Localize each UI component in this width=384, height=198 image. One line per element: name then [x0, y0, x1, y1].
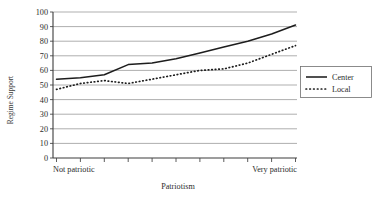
chart-figure: Regime Support 0 10 20 30 40 50 60 70 80…	[0, 0, 384, 198]
y-tick-label: 70	[40, 52, 48, 61]
x-axis-title: Patriotism	[161, 182, 195, 191]
gridlines	[53, 12, 297, 143]
y-tick-label: 50	[40, 81, 48, 90]
chart-canvas: Regime Support 0 10 20 30 40 50 60 70 80…	[0, 0, 384, 198]
y-tick-label: 30	[40, 110, 48, 119]
x-category-right: Very patriotic	[252, 165, 297, 174]
legend-label-local: Local	[332, 85, 351, 94]
legend-label-center: Center	[332, 73, 354, 82]
y-tick-label: 10	[40, 139, 48, 148]
x-tick-marks	[57, 158, 296, 162]
x-category-left: Not patriotic	[53, 165, 95, 174]
y-tick-label: 90	[40, 23, 48, 32]
y-tick-label: 20	[40, 125, 48, 134]
chart-legend: Center Local	[301, 67, 372, 98]
y-tick-label: 40	[40, 96, 48, 105]
y-tick-label: 100	[36, 8, 48, 17]
y-tick-label: 80	[40, 37, 48, 46]
series-line-local	[57, 46, 296, 90]
y-tick-labels: 0 10 20 30 40 50 60 70 80 90 100	[36, 8, 48, 163]
y-tick-label: 60	[40, 66, 48, 75]
series-line-center	[57, 25, 296, 79]
y-axis-title: Regime Support	[6, 75, 15, 124]
y-tick-label: 0	[44, 154, 48, 163]
